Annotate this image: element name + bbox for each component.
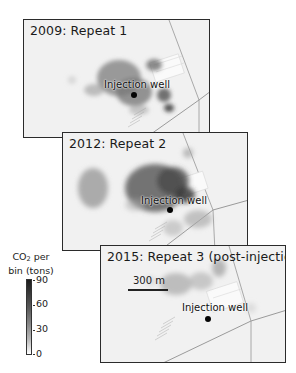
colorbar-label-60: 60 <box>36 298 48 309</box>
panel-title: 2009: Repeat 1 <box>30 23 127 38</box>
map-panel-2012: 2012: Repeat 2 Injection well <box>62 132 248 251</box>
injection-well-marker-icon <box>131 92 137 98</box>
colorbar-tick <box>33 280 35 281</box>
scale-bar <box>128 289 168 291</box>
well-label: Injection well <box>141 195 207 206</box>
colorbar-label-90: 90 <box>36 274 48 285</box>
colorbar-title-per: per <box>31 251 50 262</box>
panel-title: 2012: Repeat 2 <box>69 136 166 151</box>
panel-title: 2015: Repeat 3 (post-injection) <box>107 249 286 264</box>
colorbar-label-30: 30 <box>36 323 48 334</box>
colorbar-tick <box>33 330 35 331</box>
scale-bar-label: 300 m <box>133 275 165 286</box>
colorbar-title: CO2 per bin (tons) <box>6 251 56 276</box>
map-panel-2015: 2015: Repeat 3 (post-injection) Injectio… <box>100 245 286 363</box>
well-label: Injection well <box>182 302 248 313</box>
colorbar-tick <box>33 354 35 355</box>
colorbar-gradient <box>26 279 32 355</box>
colorbar-label-0: 0 <box>36 348 42 359</box>
map-panel-2009: 2009: Repeat 1 Injection well <box>23 19 210 138</box>
injection-well-marker-icon <box>205 316 211 322</box>
well-label: Injection well <box>104 79 170 90</box>
injection-well-marker-icon <box>167 207 173 213</box>
colorbar-title-co: CO <box>12 251 26 262</box>
colorbar-tick <box>33 305 35 306</box>
